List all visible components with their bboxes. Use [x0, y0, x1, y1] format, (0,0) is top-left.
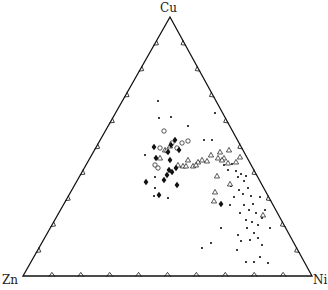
triangle-marker: [208, 152, 213, 157]
triangle-marker: [227, 181, 232, 186]
dot-marker: [231, 163, 233, 165]
dot-marker: [201, 247, 203, 249]
triangle-marker: [225, 160, 230, 165]
triangle-marker: [215, 155, 220, 160]
dot-marker: [157, 100, 159, 102]
diamond-marker: [162, 177, 167, 183]
vertex-label-zn: Zn: [2, 273, 18, 287]
dot-marker: [261, 217, 263, 219]
triangle-axes: [23, 17, 312, 276]
vertex-label-ni: Ni: [313, 273, 327, 287]
triangle-marker: [185, 157, 190, 162]
dot-marker: [246, 227, 248, 229]
dot-marker: [267, 262, 269, 264]
diamond-marker: [219, 201, 224, 207]
dot-marker: [240, 240, 242, 242]
circle-marker: [186, 139, 190, 143]
series-open-circles: [153, 129, 190, 170]
dot-marker: [233, 196, 235, 198]
diamond-marker: [152, 144, 157, 150]
triangle-marker: [204, 158, 209, 163]
dot-marker: [242, 193, 244, 195]
dot-marker: [158, 117, 160, 119]
triangle-outline: [23, 17, 312, 276]
dot-marker: [261, 244, 263, 246]
dot-marker: [210, 242, 212, 244]
triangle-marker: [260, 212, 265, 217]
circle-marker: [158, 146, 162, 150]
dot-marker: [250, 195, 252, 197]
dot-marker: [264, 209, 266, 211]
dot-marker: [253, 261, 255, 263]
dot-marker: [236, 249, 238, 251]
triangle-marker: [237, 154, 242, 159]
dot-marker: [153, 195, 155, 197]
dot-marker: [245, 175, 247, 177]
dot-marker: [252, 203, 254, 205]
dot-marker: [144, 154, 146, 156]
circle-marker: [156, 166, 160, 170]
dot-marker: [227, 169, 229, 171]
ternary-diagram: [0, 0, 328, 290]
dot-marker: [247, 187, 249, 189]
vertex-label-cu: Cu: [160, 1, 177, 15]
dot-marker: [203, 139, 205, 141]
dot-marker: [243, 180, 245, 182]
dot-marker: [237, 234, 239, 236]
diamond-marker: [157, 192, 162, 198]
circle-marker: [162, 129, 166, 133]
dot-marker: [257, 237, 259, 239]
dot-marker: [245, 219, 247, 221]
diamond-marker: [144, 179, 149, 185]
dot-marker: [238, 189, 240, 191]
dot-marker: [187, 125, 189, 127]
dot-marker: [167, 197, 169, 199]
data-points: [144, 100, 271, 264]
triangle-marker: [211, 198, 216, 203]
dot-marker: [240, 173, 242, 175]
diamond-marker: [175, 182, 180, 188]
diamond-marker: [168, 157, 173, 163]
dot-marker: [243, 204, 245, 206]
dot-marker: [211, 139, 213, 141]
dot-marker: [257, 224, 259, 226]
dot-marker: [220, 227, 222, 229]
dot-marker: [253, 232, 255, 234]
dot-marker: [229, 204, 231, 206]
triangle-marker: [226, 147, 231, 152]
dot-marker: [259, 196, 261, 198]
dot-marker: [237, 176, 239, 178]
dot-marker: [154, 176, 156, 178]
dot-marker: [255, 212, 257, 214]
triangle-marker: [233, 159, 238, 164]
dot-marker: [239, 212, 241, 214]
dot-marker: [259, 256, 261, 258]
series-open-triangles: [157, 143, 265, 217]
circle-marker: [180, 141, 184, 145]
triangle-marker: [212, 189, 217, 194]
triangle-marker: [199, 157, 204, 162]
dot-marker: [251, 221, 253, 223]
dot-marker: [170, 116, 172, 118]
dot-marker: [249, 239, 251, 241]
series-filled-diamonds: [144, 137, 224, 207]
triangle-marker: [217, 149, 222, 154]
triangle-marker: [214, 173, 219, 178]
axis-ticks: [36, 40, 300, 276]
dot-marker: [214, 112, 216, 114]
dot-marker: [248, 209, 250, 211]
dot-marker: [223, 164, 225, 166]
dot-marker: [245, 261, 247, 263]
dot-marker: [235, 170, 237, 172]
dot-marker: [269, 227, 271, 229]
dot-marker: [154, 187, 156, 189]
triangle-marker: [157, 155, 162, 160]
